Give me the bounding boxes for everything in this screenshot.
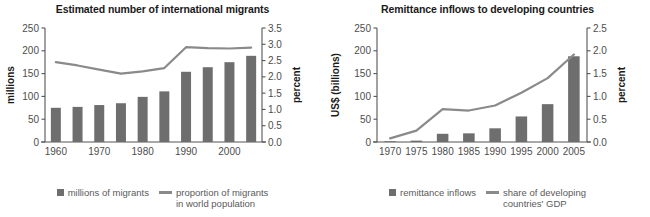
- svg-text:2000: 2000: [537, 146, 560, 157]
- legend-entry-bar: millions of migrants: [57, 187, 149, 198]
- svg-text:50: 50: [360, 114, 372, 125]
- svg-text:percent: percent: [291, 66, 302, 103]
- svg-text:1970: 1970: [88, 146, 111, 157]
- svg-text:US$ (billions): US$ (billions): [330, 53, 341, 117]
- legend-label-line: share of developing countries' GDP: [503, 187, 586, 209]
- plot-area-international-migrants: 0501001502002500.00.51.01.52.02.53.03.51…: [0, 16, 325, 166]
- svg-text:1980: 1980: [132, 146, 155, 157]
- svg-text:2000: 2000: [218, 146, 241, 157]
- svg-text:0.0: 0.0: [593, 137, 607, 148]
- legend-international-migrants: millions of migrants proportion of migra…: [0, 187, 325, 209]
- svg-text:0.0: 0.0: [268, 137, 282, 148]
- svg-text:millions: millions: [5, 66, 16, 104]
- svg-text:1970: 1970: [379, 146, 402, 157]
- svg-text:1.5: 1.5: [268, 88, 282, 99]
- bar-swatch-icon: [389, 189, 396, 196]
- svg-text:2.5: 2.5: [268, 55, 282, 66]
- svg-text:1.0: 1.0: [268, 104, 282, 115]
- svg-text:1990: 1990: [484, 146, 507, 157]
- line-swatch-icon: [486, 191, 499, 194]
- svg-text:1.5: 1.5: [593, 68, 607, 79]
- svg-text:0: 0: [365, 137, 371, 148]
- plot-area-remittance-inflows: 0501001502002500.00.51.01.52.02.51970197…: [325, 16, 650, 166]
- legend-label-bar: remittance inflows: [400, 187, 476, 198]
- legend-remittance-inflows: remittance inflows share of developing c…: [325, 187, 650, 209]
- svg-text:0.5: 0.5: [268, 120, 282, 131]
- svg-text:250: 250: [22, 23, 39, 34]
- svg-text:1960: 1960: [45, 146, 68, 157]
- svg-text:100: 100: [22, 91, 39, 102]
- svg-text:200: 200: [22, 45, 39, 56]
- chart-title-remittance-inflows: Remittance inflows to developing countri…: [325, 3, 650, 15]
- legend-label-bar: millions of migrants: [68, 187, 149, 198]
- svg-text:250: 250: [354, 23, 371, 34]
- svg-text:0.5: 0.5: [593, 114, 607, 125]
- svg-text:3.5: 3.5: [268, 23, 282, 34]
- svg-text:percent: percent: [616, 66, 627, 103]
- svg-text:200: 200: [354, 45, 371, 56]
- svg-text:1995: 1995: [510, 146, 533, 157]
- legend-entry-line: proportion of migrants in world populati…: [159, 187, 268, 209]
- svg-text:1980: 1980: [432, 146, 455, 157]
- svg-text:2005: 2005: [563, 146, 586, 157]
- legend-entry-bar: remittance inflows: [389, 187, 476, 198]
- svg-text:2.0: 2.0: [268, 71, 282, 82]
- legend-entry-line: share of developing countries' GDP: [486, 187, 586, 209]
- legend-label-line: proportion of migrants in world populati…: [176, 187, 268, 209]
- svg-text:2.0: 2.0: [593, 45, 607, 56]
- svg-text:1975: 1975: [405, 146, 428, 157]
- svg-text:1.0: 1.0: [593, 91, 607, 102]
- svg-text:0: 0: [33, 137, 39, 148]
- chart-title-international-migrants: Estimated number of international migran…: [0, 3, 325, 15]
- chart-panel-remittance-inflows: Remittance inflows to developing countri…: [325, 0, 650, 217]
- dual-chart-figure: Estimated number of international migran…: [0, 0, 650, 217]
- chart-panel-international-migrants: Estimated number of international migran…: [0, 0, 325, 217]
- svg-text:2.5: 2.5: [593, 23, 607, 34]
- svg-text:150: 150: [22, 68, 39, 79]
- svg-text:3.0: 3.0: [268, 39, 282, 50]
- svg-text:150: 150: [354, 68, 371, 79]
- svg-text:50: 50: [28, 114, 40, 125]
- bar-swatch-icon: [57, 189, 64, 196]
- line-swatch-icon: [159, 191, 172, 194]
- svg-text:100: 100: [354, 91, 371, 102]
- svg-text:1985: 1985: [458, 146, 481, 157]
- svg-text:1990: 1990: [175, 146, 198, 157]
